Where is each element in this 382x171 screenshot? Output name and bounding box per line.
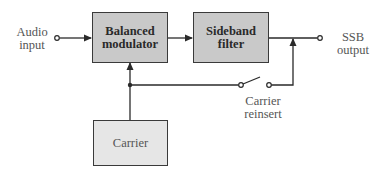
sideband-filter-label-line1: Sideband	[206, 25, 256, 38]
balanced-modulator-label-line2: modulator	[102, 38, 158, 51]
wire-switch-to-output	[271, 39, 293, 85]
audio-input-label: Audio input	[12, 26, 52, 52]
balanced-modulator-label-line1: Balanced	[102, 25, 158, 38]
carrier-reinsert-switch-icon[interactable]	[239, 77, 272, 87]
audio-input-terminal-icon	[55, 36, 60, 41]
carrier-label: Carrier	[113, 137, 148, 150]
carrier-reinsert-label: Carrier reinsert	[235, 95, 291, 121]
ssb-output-label-line2: output	[332, 44, 374, 57]
balanced-modulator-block: Balanced modulator	[92, 12, 168, 63]
carrier-reinsert-label-line2: reinsert	[235, 108, 291, 121]
audio-input-label-line2: input	[12, 39, 52, 52]
sideband-filter-block: Sideband filter	[193, 12, 269, 63]
connection-wires	[0, 0, 382, 171]
ssb-output-label: SSB output	[332, 31, 374, 57]
ssb-output-terminal-icon	[318, 36, 323, 41]
sideband-filter-label-line2: filter	[206, 38, 256, 51]
carrier-block: Carrier	[93, 120, 168, 166]
